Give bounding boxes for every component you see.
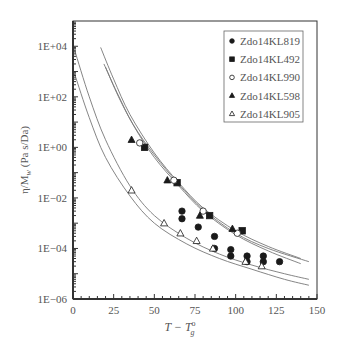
x-tick-label: 125	[268, 304, 285, 316]
marker-filled-circle	[228, 253, 234, 259]
marker-filled-square	[230, 57, 235, 62]
legend: Zdo14KL819Zdo14KL492Zdo14KL990Zdo14KL598…	[224, 31, 303, 122]
legend-item: Zdo14KL819	[230, 35, 301, 47]
y-tick-label: 1E+02	[38, 91, 67, 103]
data-markers	[128, 136, 283, 269]
y-tick-label: 1E−06	[38, 293, 68, 305]
x-axis-label: T − Tog	[164, 319, 195, 337]
marker-filled-square	[206, 212, 212, 218]
marker-open-triangle	[161, 219, 168, 225]
marker-filled-triangle	[229, 225, 236, 231]
marker-filled-circle	[228, 246, 234, 252]
y-tick-label: 1E+00	[38, 141, 68, 153]
y-tick-label: 1E+04	[38, 40, 68, 52]
marker-open-circle	[136, 140, 142, 146]
x-tick-label: 100	[227, 304, 244, 316]
x-tick-label: 75	[190, 304, 202, 316]
series-Zdo14KL819	[179, 208, 283, 265]
marker-filled-circle	[211, 233, 217, 239]
marker-open-circle	[171, 177, 177, 183]
marker-filled-circle	[276, 258, 282, 264]
marker-filled-circle	[179, 216, 185, 222]
chart-canvas: 02550751001251501E−061E−041E−021E+001E+0…	[0, 0, 340, 352]
marker-filled-circle	[230, 39, 235, 44]
legend-label: Zdo14KL492	[240, 53, 300, 65]
legend-item: Zdo14KL492	[230, 53, 300, 65]
x-tick-label: 150	[309, 304, 326, 316]
legend-label: Zdo14KL819	[240, 35, 300, 47]
x-tick-label: 25	[108, 304, 120, 316]
marker-filled-circle	[179, 208, 185, 214]
series-Zdo14KL492	[141, 144, 245, 234]
marker-filled-triangle	[128, 136, 135, 142]
legend-item: Zdo14KL990	[230, 71, 301, 83]
legend-label: Zdo14KL598	[240, 90, 300, 102]
marker-open-triangle	[193, 237, 200, 243]
legend-item: Zdo14KL905	[229, 108, 300, 120]
legend-label: Zdo14KL905	[240, 108, 300, 120]
marker-open-circle	[230, 75, 235, 80]
legend-label: Zdo14KL990	[240, 71, 300, 83]
marker-open-triangle	[128, 187, 135, 193]
x-tick-label: 50	[149, 304, 161, 316]
marker-filled-triangle	[164, 177, 171, 183]
y-axis-label: η/Mw (Pa s/Da)	[18, 126, 33, 194]
y-tick-label: 1E−04	[38, 242, 68, 254]
marker-filled-circle	[195, 224, 201, 230]
x-tick-label: 0	[70, 304, 76, 316]
legend-item: Zdo14KL598	[229, 90, 300, 102]
y-tick-label: 1E−02	[38, 192, 67, 204]
